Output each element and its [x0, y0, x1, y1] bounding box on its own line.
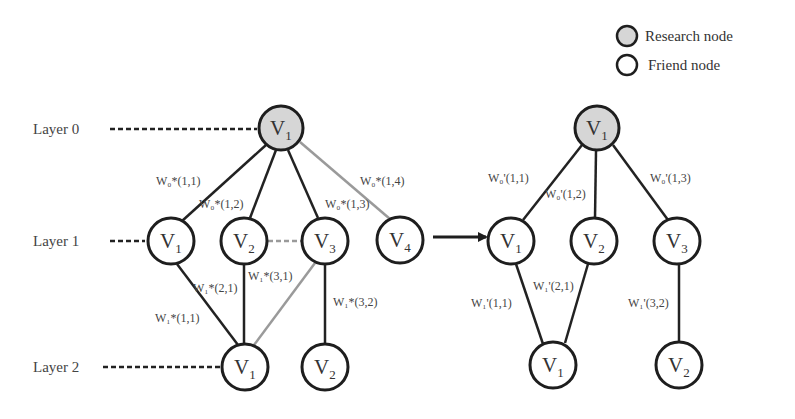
legend-friend-label: Friend node — [648, 57, 720, 73]
diagram-canvas: Research node Friend node Layer 0 Layer … — [0, 0, 795, 419]
node-sub: 1 — [515, 241, 522, 256]
node-base: V — [500, 229, 515, 253]
weight-w0-1-4: W₀*(1,4) — [360, 174, 405, 188]
node-sub: 2 — [248, 241, 255, 256]
weight-w0-1-1: W₀*(1,1) — [156, 174, 201, 188]
left-l1-node-v2: V2 — [221, 218, 267, 264]
right-l1-node-v3: V3 — [654, 218, 700, 264]
weight-r-w0-1-1: W₀'(1,1) — [488, 171, 529, 185]
node-base: V — [542, 353, 557, 377]
left-l1-node-v1: V1 — [148, 218, 194, 264]
node-base: V — [314, 355, 329, 379]
node-sub: 1 — [557, 365, 564, 380]
node-base: V — [586, 116, 601, 140]
friend-node-legend-icon — [617, 55, 637, 75]
weight-r-w0-1-2: W₀'(1,2) — [545, 187, 586, 201]
node-base: V — [233, 229, 248, 253]
left-l2-node-v2: V2 — [302, 344, 348, 390]
edge-r-l0v1-l1v2 — [595, 151, 596, 218]
node-base: V — [314, 229, 329, 253]
node-sub: 1 — [175, 241, 182, 256]
edge-r-l1v1-l2v1 — [516, 264, 543, 344]
weight-r-w1-1-1: W₁'(1,1) — [471, 296, 512, 310]
edge-l0v1-l1v3 — [288, 150, 318, 218]
node-sub: 2 — [683, 365, 690, 380]
node-base: V — [234, 355, 249, 379]
edge-l1v1-l2v1 — [177, 264, 238, 345]
weight-w0-1-2: W₀*(1,2) — [199, 197, 244, 211]
right-l1-node-v2: V2 — [571, 218, 617, 264]
left-l1-node-v4: V4 — [377, 217, 423, 263]
right-l2-node-v1: V1 — [530, 342, 576, 388]
layer-2-label: Layer 2 — [33, 359, 79, 375]
weight-w0-1-3: W₀*(1,3) — [325, 197, 370, 211]
node-base: V — [270, 116, 285, 140]
edge-r-l0v1-l1v1 — [523, 145, 582, 220]
weight-r-w1-2-1: W₁'(2,1) — [533, 279, 574, 293]
left-l1-node-v3: V3 — [302, 218, 348, 264]
node-sub: 2 — [598, 241, 605, 256]
right-graph-nodes: V1 V1 V2 V3 V1 V2 — [488, 106, 702, 388]
weight-w1-2-1: W₁*(2,1) — [193, 281, 238, 295]
weight-w1-3-1: W₁*(3,1) — [248, 269, 293, 283]
edge-r-l1v2-l2v1 — [565, 264, 588, 343]
node-sub: 3 — [329, 241, 336, 256]
node-base: V — [160, 229, 175, 253]
research-node-legend-icon — [617, 26, 637, 46]
node-sub: 4 — [404, 240, 411, 255]
weight-w1-1-1: W₁*(1,1) — [155, 311, 200, 325]
legend: Research node Friend node — [617, 26, 733, 75]
left-graph-edges — [177, 142, 390, 345]
node-base: V — [389, 228, 404, 252]
node-sub: 1 — [249, 367, 256, 382]
node-sub: 1 — [285, 128, 292, 143]
layer-1-label: Layer 1 — [33, 233, 79, 249]
layer-0-label: Layer 0 — [33, 121, 79, 137]
node-base: V — [668, 353, 683, 377]
node-sub: 1 — [601, 128, 608, 143]
edge-l0v1-l1v2 — [250, 150, 276, 218]
weight-r-w0-1-3: W₀'(1,3) — [650, 171, 691, 185]
right-l0-node-v1: V1 — [575, 106, 619, 150]
node-sub: 2 — [329, 367, 336, 382]
right-l2-node-v2: V2 — [656, 342, 702, 388]
left-graph-nodes: V1 V1 V2 V3 V4 V1 V2 — [148, 106, 423, 390]
node-sub: 3 — [681, 241, 688, 256]
node-base: V — [666, 229, 681, 253]
right-l1-node-v1: V1 — [488, 218, 534, 264]
legend-research-label: Research node — [645, 28, 733, 44]
left-l2-node-v1: V1 — [222, 344, 268, 390]
node-base: V — [583, 229, 598, 253]
weight-r-w1-3-2: W₁'(3,2) — [628, 296, 669, 310]
weight-w1-3-2: W₁*(3,2) — [333, 295, 378, 309]
left-l0-node-v1: V1 — [259, 106, 303, 150]
